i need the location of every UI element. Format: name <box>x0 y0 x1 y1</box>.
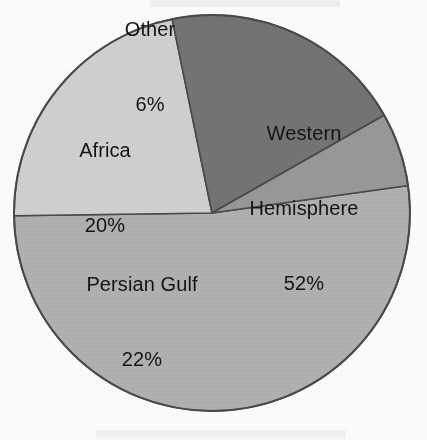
pie-chart: Western Hemisphere 52% Africa 20% Persia… <box>0 0 427 440</box>
pie-chart-canvas <box>0 0 427 440</box>
pie-slices-group <box>14 15 410 411</box>
pie-slice-western-hemisphere[interactable] <box>14 185 410 411</box>
